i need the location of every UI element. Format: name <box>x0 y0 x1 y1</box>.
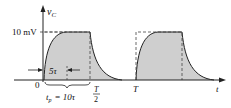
response-area-2 <box>136 32 214 80</box>
rise-time-label: 5τ <box>49 66 58 76</box>
half-period-denominator: 2 <box>94 95 98 104</box>
half-period-numerator: T <box>94 85 99 94</box>
level-label: 10 mV <box>12 27 37 37</box>
x-axis-label: t <box>216 84 219 94</box>
pulse-width-label: tp= 10τ <box>46 92 76 103</box>
origin-label: 0 <box>35 80 40 90</box>
y-axis-label: vC <box>47 6 56 19</box>
tp-brace <box>45 82 90 88</box>
period-label: T <box>133 84 139 94</box>
x-axis-arrow-icon <box>219 78 226 83</box>
rise-arrow-left-head-icon <box>38 68 43 72</box>
y-axis-arrow-icon <box>41 5 46 12</box>
rc-charging-waveform: vC 10 mV 0 5τ tp= 10τ T 2 T t <box>0 0 231 108</box>
